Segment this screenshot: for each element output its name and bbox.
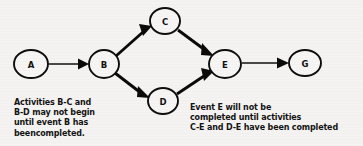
node-c-label: C [162,17,168,27]
node-e: E [209,50,241,78]
node-g: G [289,50,321,76]
edge-b-to-d [115,73,150,98]
node-b: B [89,50,119,78]
caption-right-line-1: Event E will not be [190,103,338,113]
caption-left: Activities B-C and B-D may not begin unt… [14,98,95,139]
caption-right-line-3: C-E and D-E have been completed [190,123,338,133]
node-a: A [14,50,48,78]
edge-e-to-g [242,58,289,69]
caption-right-line-2: completed until activities [190,113,338,123]
node-b-label: B [101,60,107,70]
edge-a-to-b [49,59,89,70]
node-a-label: A [28,60,35,70]
network-diagram: A B C D E G Activities B-C and B-D may n… [0,0,363,146]
node-c: C [150,8,180,34]
node-d: D [148,88,178,114]
edge-c-to-e [178,30,214,56]
caption-right: Event E will not be completed until acti… [190,103,338,134]
node-d-label: D [159,97,166,107]
caption-left-line-3: until event B has [14,118,95,128]
node-e-label: E [222,60,228,70]
node-g-label: G [302,59,309,69]
caption-left-line-2: B-D may not begin [14,108,95,118]
caption-left-line-4: beencompleted. [14,129,95,139]
caption-left-line-1: Activities B-C and [14,98,95,108]
edge-d-to-e [177,68,214,94]
edge-b-to-c [116,24,152,56]
